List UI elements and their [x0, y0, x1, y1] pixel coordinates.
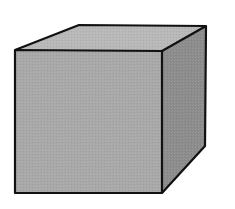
cube-svg	[0, 0, 235, 209]
cube-diagram	[0, 0, 235, 209]
